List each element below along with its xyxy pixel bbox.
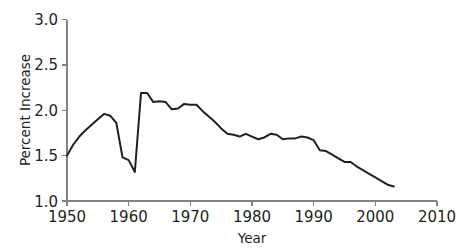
x-tick-label-2010: 2010 <box>418 208 456 226</box>
x-tick-label-1980: 1980 <box>233 208 271 226</box>
x-tick-label-1990: 1990 <box>295 208 333 226</box>
x-tick-label-1970: 1970 <box>171 208 209 226</box>
y-tick-label-1.5: 1.5 <box>34 147 58 165</box>
y-tick-label-2.0: 2.0 <box>34 102 58 120</box>
y-tick-label-3.0: 3.0 <box>34 11 58 29</box>
x-tick-label-2000: 2000 <box>356 208 394 226</box>
chart-figure: 1.01.52.02.53.0 195019601970198019902000… <box>0 0 476 251</box>
y-axis-tick-labels: 1.01.52.02.53.0 <box>34 11 58 211</box>
y-tick-label-2.5: 2.5 <box>34 56 58 74</box>
y-axis-title: Percent Increase <box>17 54 33 166</box>
data-series-line <box>67 93 394 186</box>
x-tick-label-1960: 1960 <box>110 208 148 226</box>
x-tick-label-1950: 1950 <box>48 208 86 226</box>
line-chart: 1.01.52.02.53.0 195019601970198019902000… <box>0 0 476 251</box>
x-axis-title: Year <box>237 230 267 246</box>
x-axis-tick-labels: 1950196019701980199020002010 <box>48 208 456 226</box>
